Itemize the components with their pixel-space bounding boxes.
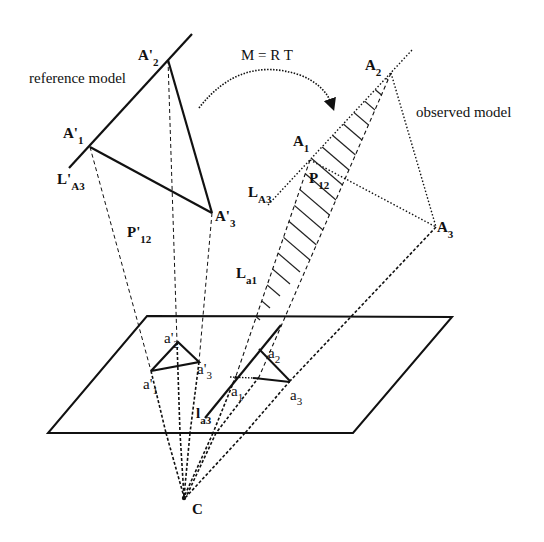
observed-image-features xyxy=(205,325,290,418)
label-img-obs-a3: a3 xyxy=(290,387,303,407)
label-ref-A2: A'2 xyxy=(138,47,159,68)
reference-edge-A1-A3 xyxy=(90,147,212,213)
projection-diagram: M = R T reference model observed model A… xyxy=(0,0,544,542)
observed-model xyxy=(140,50,436,381)
label-obs-P12: P12 xyxy=(309,170,330,191)
ref-ray-A2-a2 xyxy=(168,60,177,342)
plane-P12-hatching xyxy=(140,56,430,380)
ref-ray-A1-a1 xyxy=(90,147,151,371)
label-ref-LA3: L'A3 xyxy=(57,171,85,192)
label-obs-A1: A1 xyxy=(293,133,309,154)
label-obs-La1: La1 xyxy=(236,265,257,286)
label-img-obs-a1: a1 xyxy=(231,383,243,403)
label-img-obs-a2: a2 xyxy=(268,345,280,365)
observed-edge-A2-A3 xyxy=(391,73,436,227)
camera-center-point xyxy=(182,496,186,500)
label-ref-A3: A'3 xyxy=(215,208,236,229)
ray-A3-a3 xyxy=(290,227,436,381)
label-obs-LA3: LA3 xyxy=(248,184,272,205)
reference-edge-A2-A3 xyxy=(168,60,212,213)
reference-model-label: reference model xyxy=(29,70,126,86)
image-edge-a1-a3-dotted xyxy=(230,377,253,378)
label-ref-A1: A'1 xyxy=(63,125,84,146)
observed-model-label: observed model xyxy=(416,104,511,120)
ray-A2-to-C xyxy=(259,73,391,377)
camera-rays xyxy=(151,342,290,497)
reference-line-LA3 xyxy=(69,34,192,168)
label-ref-P12: P'12 xyxy=(127,224,152,245)
transform-label: M = R T xyxy=(241,47,293,63)
transform-arrow xyxy=(199,70,332,108)
label-img-obs-la3: la3 xyxy=(196,405,212,426)
label-img-ref-a3: a'3 xyxy=(197,361,212,381)
ref-ray-A3-a3 xyxy=(199,213,212,362)
camera-center-label: C xyxy=(192,501,203,517)
label-obs-A2: A2 xyxy=(365,57,382,78)
label-obs-A3: A3 xyxy=(437,219,454,240)
label-img-ref-a1: a'1 xyxy=(143,376,158,396)
